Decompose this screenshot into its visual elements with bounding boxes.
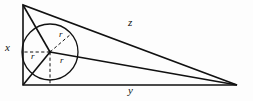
geometry-figure: x y z r r r <box>0 0 253 101</box>
incenter-point <box>49 51 52 54</box>
figure-canvas <box>0 0 253 101</box>
label-side-y: y <box>128 85 133 96</box>
label-side-z: z <box>128 17 132 28</box>
segment-incenter-to-top-left <box>23 5 50 52</box>
label-radius-upper: r <box>59 30 63 39</box>
label-side-x: x <box>5 42 10 53</box>
segment-incenter-to-bottom-right <box>50 52 237 85</box>
label-radius-lower-right: r <box>60 56 64 65</box>
label-radius-left: r <box>31 52 35 61</box>
